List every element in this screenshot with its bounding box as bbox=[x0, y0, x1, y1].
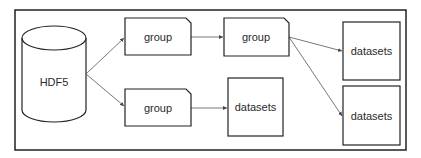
datasets-label: datasets bbox=[235, 101, 277, 113]
datasets-label: datasets bbox=[351, 110, 393, 122]
group-label: group bbox=[242, 31, 270, 43]
datasets-label: datasets bbox=[351, 45, 393, 57]
group-node-1: group bbox=[125, 18, 191, 55]
datasets-node-2: datasets bbox=[343, 22, 400, 80]
group-label: group bbox=[144, 31, 172, 43]
hdf5-root-cylinder: HDF5 bbox=[22, 26, 86, 122]
datasets-node-3: datasets bbox=[343, 86, 400, 145]
group-node-2: group bbox=[224, 18, 289, 56]
group-label: group bbox=[144, 102, 172, 114]
hdf5-label: HDF5 bbox=[40, 76, 69, 88]
group-node-3: group bbox=[125, 89, 191, 126]
hdf5-hierarchy-diagram: HDF5 group group group datasets datasets… bbox=[0, 0, 421, 158]
datasets-node-1: datasets bbox=[228, 78, 283, 136]
